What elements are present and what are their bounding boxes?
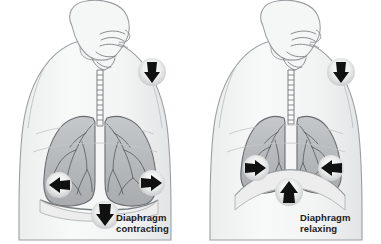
- caption-right-line2: relaxing: [300, 223, 351, 234]
- breathing-diagram: Diaphragm contracting Diaphragm relaxing: [0, 0, 381, 244]
- trachea: [97, 70, 103, 126]
- caption-diaphragm-relaxing: Diaphragm relaxing: [300, 212, 351, 234]
- panel-diaphragm-relaxing: [191, 0, 381, 244]
- ribcage-right-arrow: [139, 170, 165, 196]
- ribcage-right-arrow: [318, 155, 344, 181]
- airflow-nose-arrow: [327, 58, 355, 86]
- caption-left-line2: contracting: [116, 223, 169, 234]
- trachea: [288, 70, 294, 124]
- caption-diaphragm-contracting: Diaphragm contracting: [116, 212, 169, 234]
- diaphragm-arrow: [91, 201, 119, 229]
- panel-diaphragm-contracting: [0, 0, 190, 244]
- caption-right-line1: Diaphragm: [300, 212, 351, 223]
- ribcage-left-arrow: [243, 155, 269, 181]
- caption-left-line1: Diaphragm: [116, 212, 167, 223]
- airflow-nose-arrow: [138, 58, 166, 86]
- diaphragm-arrow: [275, 178, 303, 206]
- ribcage-left-arrow: [46, 172, 72, 198]
